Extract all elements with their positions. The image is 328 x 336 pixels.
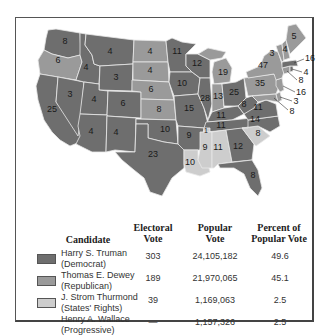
label-nd: 4 <box>147 46 152 56</box>
label-ut: 4 <box>91 94 96 104</box>
label-ar: 9 <box>186 130 191 140</box>
popular-vote: 1,169,063 <box>180 295 250 305</box>
label-nv: 3 <box>67 89 72 99</box>
label-fl: 8 <box>250 170 255 180</box>
candidate-name: Harry S. Truman (Democrat) <box>61 248 127 269</box>
label-de: 3 <box>293 96 298 106</box>
label-sc: 8 <box>255 128 260 138</box>
electoral-vote: 39 <box>133 295 173 305</box>
label-ny: 47 <box>258 60 268 70</box>
label-az: 4 <box>88 126 93 136</box>
label-tn-split: 1 <box>204 127 208 134</box>
header-popular-vote: Popular Vote <box>185 222 245 244</box>
label-pa: 35 <box>255 78 265 88</box>
label-ms: 9 <box>202 142 207 152</box>
label-ga: 12 <box>233 141 243 151</box>
label-vt: 3 <box>269 48 274 58</box>
candidate-name: Thomas E. Dewey (Republican) <box>61 270 135 291</box>
label-md: 8 <box>289 106 294 116</box>
popular-vote: 1,157,326 <box>180 317 250 327</box>
label-wi: 12 <box>192 58 202 68</box>
electoral-vote: — <box>133 317 173 327</box>
label-ct: 8 <box>298 75 303 85</box>
label-ok: 10 <box>160 124 170 134</box>
header-candidate: Candidate <box>43 234 133 245</box>
table-row-truman: Harry S. Truman (Democrat) 303 24,105,18… <box>15 248 311 270</box>
label-tx: 23 <box>148 149 158 159</box>
label-id: 4 <box>83 62 88 72</box>
popular-vote: 21,970,065 <box>180 273 250 283</box>
label-oh: 25 <box>229 87 239 97</box>
us-electoral-map: 8 6 25 4 3 4 3 4 4 6 4 4 4 6 8 10 23 11 … <box>0 0 328 222</box>
label-me: 5 <box>291 31 296 41</box>
label-or: 6 <box>55 55 60 65</box>
label-nm: 4 <box>113 127 118 137</box>
label-va: 11 <box>253 102 262 112</box>
percent-vote: 2.5 <box>255 317 305 327</box>
label-la: 10 <box>185 157 195 167</box>
label-tn: 11 <box>216 120 225 130</box>
popular-vote: 24,105,182 <box>180 251 250 261</box>
label-il: 28 <box>200 93 210 103</box>
label-ks: 8 <box>156 104 161 114</box>
label-co: 6 <box>120 98 125 108</box>
table-row-wallace: Henry A. Wallace (Progressive) — 1,157,3… <box>15 314 311 336</box>
label-wy: 3 <box>113 72 118 82</box>
label-wa: 8 <box>62 36 67 46</box>
label-mn: 11 <box>172 46 181 56</box>
label-ma: 16 <box>305 53 315 63</box>
label-mt: 4 <box>107 46 112 56</box>
swatch-thurmond <box>37 298 56 308</box>
swatch-truman <box>37 254 56 264</box>
label-sd: 4 <box>147 65 152 75</box>
candidate-name: Henry A. Wallace (Progressive) <box>61 314 130 335</box>
percent-vote: 2.5 <box>255 295 305 305</box>
header-electoral-vote: Electoral Vote <box>128 222 178 244</box>
label-al: 11 <box>213 142 222 152</box>
percent-vote: 49.6 <box>255 251 305 261</box>
state-nm[interactable] <box>106 116 136 152</box>
label-ia: 10 <box>177 78 187 88</box>
table-row-dewey: Thomas E. Dewey (Republican) 189 21,970,… <box>15 270 311 292</box>
header-percent-popular: Percent of Popular Vote <box>243 222 315 244</box>
label-ne: 6 <box>148 84 153 94</box>
table-row-thurmond: J. Strom Thurmond (States' Rights) 39 1,… <box>15 292 311 314</box>
label-in: 13 <box>213 91 223 101</box>
percent-vote: 45.1 <box>255 273 305 283</box>
swatch-dewey <box>37 276 56 286</box>
electoral-vote: 303 <box>133 251 173 261</box>
candidate-name: J. Strom Thurmond (States' Rights) <box>61 292 138 313</box>
label-ca: 25 <box>47 104 57 114</box>
label-nh: 4 <box>282 44 287 54</box>
electoral-vote: 189 <box>133 273 173 283</box>
label-ri: 4 <box>303 67 308 77</box>
label-ky: 11 <box>216 110 225 120</box>
label-wv: 8 <box>241 99 246 109</box>
label-mi: 19 <box>218 67 228 77</box>
label-mo: 15 <box>184 103 194 113</box>
label-nc: 14 <box>250 114 260 124</box>
